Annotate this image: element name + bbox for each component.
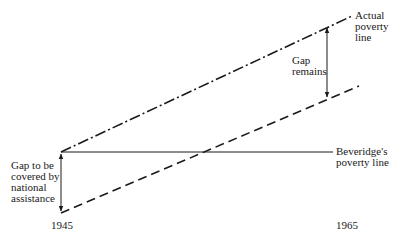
actual-poverty-line-label: Actual poverty line [355,10,389,43]
gap-to-be-covered-label: Gap to be covered by national assistance [11,160,60,204]
year-1965: 1965 [336,220,358,231]
poverty-line-diagram [0,0,401,235]
gap-remains-label: Gap remains [292,55,327,77]
actual-poverty-line [61,16,352,152]
year-label-end: 1965 [336,220,358,231]
year-1945: 1945 [51,220,73,231]
assistance-dashed-line [61,86,359,213]
year-label-start: 1945 [51,220,73,231]
gap-remains-line-2: remains [292,66,327,77]
beveridge-poverty-line-label: Beveridge's poverty line [336,146,389,168]
gap-start-line-4: assistance [11,193,60,204]
beveridge-label-line-2: poverty line [336,157,389,168]
actual-label-line-3: line [355,32,389,43]
